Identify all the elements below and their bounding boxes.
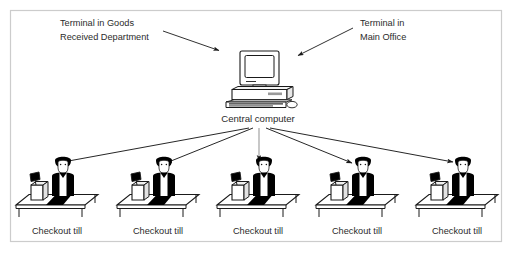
annotation-goods-line2: Received Department (60, 32, 149, 42)
till-register-body-icon (431, 185, 443, 200)
diagram-canvas: Terminal in Goods Received Department Te… (0, 0, 512, 263)
till-register-side-icon (244, 182, 249, 201)
mouse-icon (287, 101, 297, 107)
till-register-side-icon (144, 182, 149, 201)
drive-slot-icon (268, 93, 282, 96)
cashier-face-icon (358, 160, 368, 173)
till-register-side-icon (343, 182, 348, 201)
till-register-body-icon (31, 185, 43, 200)
till-register-side-icon (443, 182, 448, 201)
till-register-body-icon (132, 185, 144, 200)
cashier-eye-icon (166, 164, 168, 166)
central-computer-label: Central computer (221, 113, 295, 124)
till-register-body-icon (232, 185, 244, 200)
annotation-office-line2: Main Office (360, 32, 406, 42)
checkout-till-label: Checkout till (332, 226, 382, 236)
checkout-till-label: Checkout till (32, 226, 82, 236)
cashier-eye-icon (60, 164, 62, 166)
counter-front-edge-icon (117, 205, 186, 209)
checkout-till-label: Checkout till (233, 226, 283, 236)
till-register-body-icon (331, 185, 343, 200)
cashier-eye-icon (365, 164, 367, 166)
computer-case-top-icon (232, 87, 293, 90)
till-register-side-icon (43, 182, 48, 201)
annotation-office-line1: Terminal in (360, 18, 404, 28)
cashier-eye-icon (161, 164, 163, 166)
keyboard-front-icon (226, 102, 286, 108)
counter-front-edge-icon (316, 205, 385, 209)
cashier-face-icon (58, 160, 68, 173)
cashier-eye-icon (360, 164, 362, 166)
network-diagram: Terminal in Goods Received Department Te… (0, 0, 512, 263)
cashier-face-icon (259, 160, 269, 173)
keyboard-keys-row-icon (229, 103, 283, 105)
cashier-face-icon (458, 160, 468, 173)
checkout-till-label: Checkout till (432, 226, 482, 236)
counter-front-edge-icon (16, 205, 85, 209)
cashier-eye-icon (65, 164, 67, 166)
cashier-face-icon (159, 160, 169, 173)
monitor-screen-icon (245, 56, 274, 78)
keyboard-keys-row-icon (229, 105, 273, 106)
cashier-eye-icon (261, 164, 263, 166)
counter-front-edge-icon (416, 205, 485, 209)
checkout-till-label: Checkout till (133, 226, 183, 236)
annotation-goods-line1: Terminal in Goods (60, 18, 134, 28)
cashier-eye-icon (465, 164, 467, 166)
cashier-eye-icon (460, 164, 462, 166)
counter-front-edge-icon (217, 205, 286, 209)
cashier-eye-icon (266, 164, 268, 166)
